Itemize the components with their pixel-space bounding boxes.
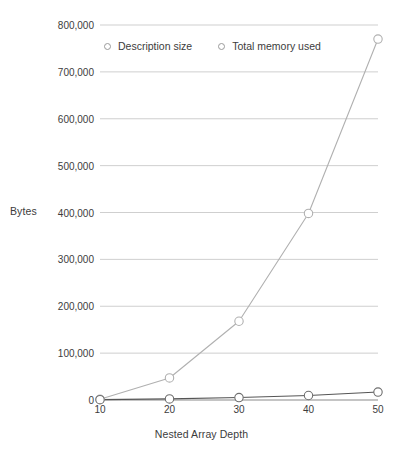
data-point-marker[interactable] [165,395,173,403]
chart-legend: Description size Total memory used [104,40,321,52]
data-point-marker[interactable] [235,317,243,325]
legend-item-description-size[interactable]: Description size [104,40,192,52]
chart-container: Bytes 0100,000200,000300,000400,000500,0… [0,0,403,455]
data-point-marker[interactable] [235,393,243,401]
x-axis-title: Nested Array Depth [0,428,403,440]
data-point-marker[interactable] [165,374,173,382]
data-point-marker[interactable] [304,209,312,217]
legend-label: Total memory used [232,40,321,52]
legend-marker-icon [218,43,225,50]
series-markers [96,35,382,404]
data-point-marker[interactable] [374,388,382,396]
gridlines [100,25,378,400]
series-line [100,39,378,399]
legend-item-total-memory-used[interactable]: Total memory used [218,40,321,52]
legend-label: Description size [118,40,192,52]
legend-marker-icon [104,43,111,50]
data-point-marker[interactable] [304,391,312,399]
data-point-marker[interactable] [96,395,104,403]
series-lines [100,39,378,400]
plot-area [0,0,403,455]
data-point-marker[interactable] [374,35,382,43]
